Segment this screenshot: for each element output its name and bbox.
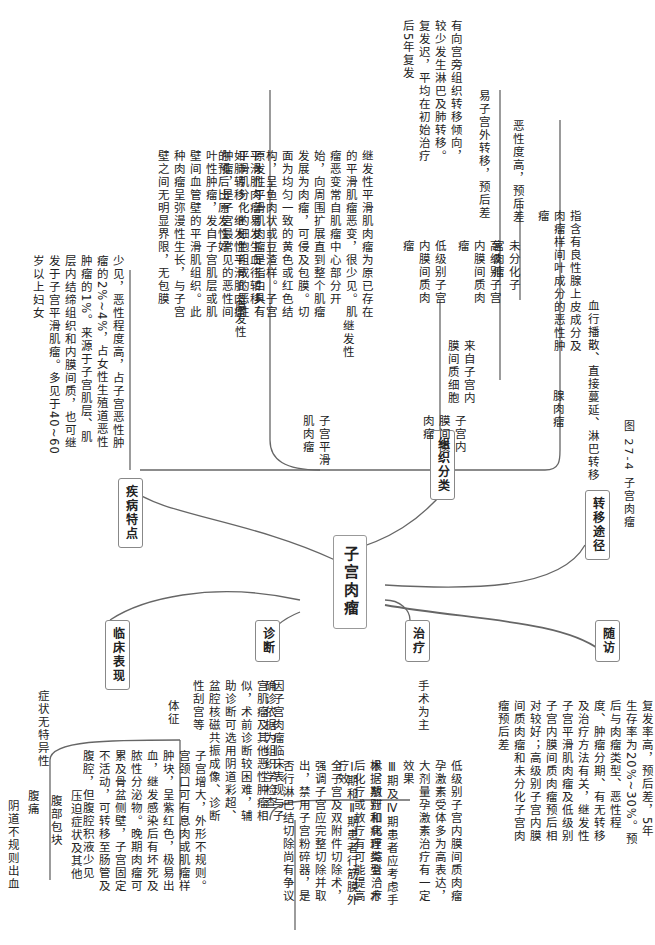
- diagnosis-confirm: 确诊依据为组织学检查: [262, 680, 278, 810]
- stromal-high-text: 易子宫外转移，预后差: [476, 90, 492, 220]
- symptom-item: 腹部包块: [48, 795, 64, 847]
- stromal-label: 子宫内膜间质肉瘤: [420, 415, 468, 465]
- signs-label: 体征: [165, 700, 181, 726]
- leio-label: 子宫平滑肌肉瘤: [300, 415, 332, 475]
- undiff-label: 未分化子宫肉瘤: [490, 240, 522, 300]
- treatment-item: Ⅲ期及Ⅳ期患者应考虑手术、放疗和化疗综合治疗: [368, 760, 400, 910]
- metastasis-text: 血行播散、直接蔓延、淋巴转移: [585, 300, 601, 482]
- leio-secondary-label: 继发性: [340, 320, 356, 359]
- root-node: 子宫肉瘤: [333, 535, 367, 629]
- stromal-low-label: 低级别子宫内膜间质肉瘤: [400, 240, 448, 310]
- branch-diagnosis: 诊断: [255, 620, 280, 662]
- signs-text: 子宫增大，外形不规则。宫颈口可有息肉或肌瘤样肿块，呈紫红色，极易出血，继发感染后…: [80, 750, 208, 900]
- undiff-text: 恶性度高，预后差: [510, 120, 526, 224]
- features-text: 少见，恶性程度高，占子宫恶性肿瘤的2%~4%，占女性生殖道恶性肿瘤的1%。来源于…: [30, 255, 126, 455]
- figure-caption: 图 27-4 子宫肉瘤: [620, 420, 636, 529]
- symptoms-label: 症状无特异性: [35, 690, 51, 768]
- leio-secondary-text: 继发性平滑肌肉瘤为原已存在的平滑肌瘤恶变，很少见。肌瘤恶变常自肌瘤中心部分开始，…: [215, 150, 375, 320]
- stromal-low-text: 有向宫旁组织转移倾向，较少发生淋巴及肺转移。复发迟，平均在初始治疗后5年复发: [400, 20, 464, 170]
- branch-features: 疾病特点: [118, 478, 143, 548]
- branch-clinical: 临床表现: [105, 620, 130, 690]
- followup-text: 复发率高，预后差，5年生存率为20%~30%。预后与肉瘤类型、恶性程度、肿瘤分期…: [495, 700, 655, 850]
- adeno-text: 指含有良性腺上皮成分及肉瘤样间叶成分的恶性肿瘤: [535, 210, 583, 360]
- branch-treatment: 治疗: [405, 620, 430, 662]
- stromal-origin: 来自子宫内膜间质细胞: [445, 340, 477, 410]
- symptom-item: 阴道不规则出血: [5, 800, 21, 891]
- symptom-item: 腹痛: [25, 790, 41, 816]
- adeno-label: 腺肉瘤: [550, 390, 566, 429]
- treatment-principle: 手术为主: [415, 680, 431, 732]
- treatment-item: 低级别子宫内膜间质肉瘤孕激素受体多为高表达，大剂量孕激素治疗有一定效果: [400, 760, 464, 910]
- branch-followup: 随访: [595, 620, 620, 662]
- branch-metastasis: 转移途径: [585, 490, 610, 560]
